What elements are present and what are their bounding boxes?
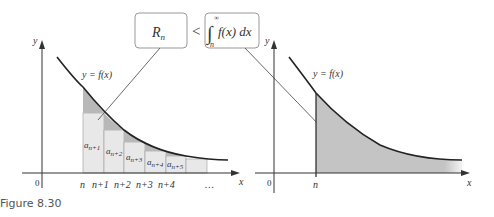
right-graph: y x 0 n y = f(x) xyxy=(255,35,472,193)
x-label: x xyxy=(238,176,244,187)
x-axis-arrow-icon xyxy=(461,170,470,176)
tick-n: n xyxy=(313,179,318,190)
tick-n4: n+4 xyxy=(158,179,175,190)
x-label: x xyxy=(466,177,472,188)
integral-lower: n xyxy=(210,40,214,49)
less-than-symbol: < xyxy=(192,23,200,39)
origin-label: 0 xyxy=(267,178,272,188)
callout: Rn < ∫ ∞ n f(x) dx xyxy=(98,13,322,128)
figure-canvas: y x 0 y = f(x) n n+1 n+2 n+3 n+4 … an+1 … xyxy=(0,0,494,217)
origin-label: 0 xyxy=(35,178,40,188)
leader-line-right xyxy=(245,48,322,128)
tick-n: n xyxy=(80,179,85,190)
y-axis-arrow-icon xyxy=(39,40,45,49)
rn-box xyxy=(135,13,187,48)
figure-caption: Figure 8.30 xyxy=(0,197,62,210)
curve-label: y = f(x) xyxy=(312,68,344,80)
shaded-area xyxy=(316,93,462,173)
y-axis-arrow-icon xyxy=(271,40,277,49)
tick-n3: n+3 xyxy=(136,179,153,190)
tick-ellipsis: … xyxy=(205,179,214,190)
integrand: f(x) dx xyxy=(218,24,252,39)
leader-line-left xyxy=(98,48,160,120)
y-label: y xyxy=(32,35,38,46)
integral-upper: ∞ xyxy=(214,14,219,22)
curve-label: y = f(x) xyxy=(81,69,113,81)
left-graph: y x 0 y = f(x) n n+1 n+2 n+3 n+4 … an+1 … xyxy=(22,35,244,190)
tick-n2: n+2 xyxy=(114,179,131,190)
tick-n1: n+1 xyxy=(92,179,109,190)
y-label: y xyxy=(264,35,270,46)
